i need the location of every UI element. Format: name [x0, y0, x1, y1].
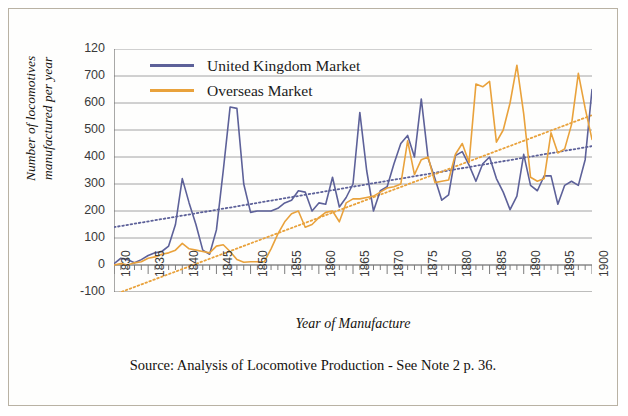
- x-tick-label: 1865: [358, 250, 372, 277]
- x-tick-label: 1870: [392, 250, 406, 277]
- x-tick-label: 1855: [290, 250, 304, 277]
- y-axis-title-line2: manufactured per year: [40, 57, 55, 180]
- legend-line-swatch-icon: [150, 89, 194, 92]
- legend-item-label: Overseas Market: [207, 82, 312, 100]
- x-tick-label: 1885: [495, 250, 509, 277]
- source-caption: Source: Analysis of Locomotive Productio…: [9, 357, 617, 374]
- y-tick-label: 700: [59, 68, 105, 82]
- y-tick-label: 100: [59, 230, 105, 244]
- x-tick-label: 1890: [529, 250, 543, 277]
- x-tick-label: 1860: [324, 250, 338, 277]
- y-axis-title: Number of locomotives manufactured per y…: [22, 3, 57, 233]
- trendline: [114, 115, 592, 292]
- y-tick-label: 500: [59, 122, 105, 136]
- x-tick-label: 1880: [460, 250, 474, 277]
- x-tick-label: 1830: [119, 250, 133, 277]
- figure-frame: Number of locomotives manufactured per y…: [8, 8, 618, 406]
- x-tick-label: 1875: [426, 250, 440, 277]
- legend: United Kingdom MarketOverseas Market: [150, 53, 360, 103]
- x-axis-title: Year of Manufacture: [114, 316, 592, 332]
- trendline: [114, 146, 592, 227]
- chart-figure: Number of locomotives manufactured per y…: [9, 9, 617, 405]
- y-tick-label: 600: [59, 95, 105, 109]
- legend-item-label: United Kingdom Market: [207, 57, 360, 75]
- legend-item[interactable]: United Kingdom Market: [150, 53, 360, 78]
- x-tick-label: 1850: [256, 250, 270, 277]
- y-axis-title-line1: Number of locomotives: [23, 56, 38, 181]
- y-tick-label: 0: [59, 257, 105, 271]
- y-tick-label: 300: [59, 176, 105, 190]
- x-tick-label: 1895: [563, 250, 577, 277]
- legend-item[interactable]: Overseas Market: [150, 78, 360, 103]
- x-tick-label: 1840: [187, 250, 201, 277]
- series-line: [114, 90, 592, 264]
- y-tick-label: 120: [59, 41, 105, 55]
- x-tick-label: 1835: [153, 250, 167, 277]
- y-tick-label: 200: [59, 203, 105, 217]
- x-tick-label: 1900: [597, 250, 611, 277]
- y-tick-label: 400: [59, 149, 105, 163]
- legend-line-swatch-icon: [150, 64, 194, 67]
- x-tick-label: 1845: [221, 250, 235, 277]
- y-tick-label: -100: [59, 284, 105, 298]
